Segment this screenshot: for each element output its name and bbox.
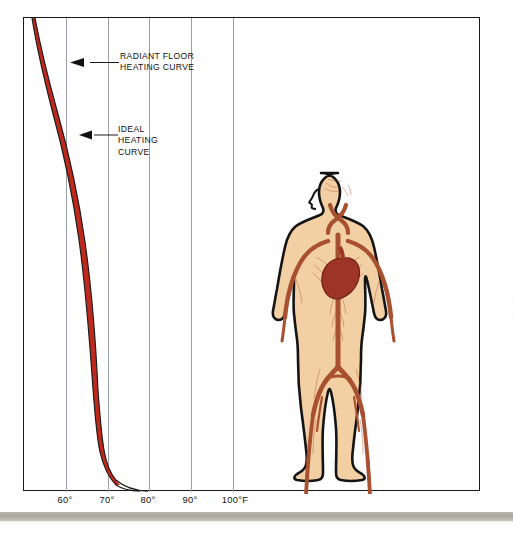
ideal-callout-leader [79,131,118,140]
tick-label-80: 80° [140,494,155,505]
callout-ideal-line2: HEATING [118,135,158,146]
callout-ideal-line1: IDEAL [118,124,158,135]
tick-label-100: 100°F [222,494,249,505]
callout-radiant-line1: RADIANT FLOOR [120,51,194,62]
callout-ideal-line3: CURVE [118,147,158,158]
tick-label-90: 90° [182,494,197,505]
comfort-band-area [32,18,120,485]
chart-gridlines [66,18,233,492]
tick-label-60: 60° [57,494,72,505]
x-axis-tick-labels: 60° 70° 80° 90° 100°F [0,494,513,510]
ideal-heating-curve [35,18,148,491]
callout-ideal: IDEAL HEATING CURVE [118,124,158,158]
radiant-callout-leader [70,58,119,67]
body-silhouette [273,173,386,481]
figure-page: RADIANT FLOOR HEATING CURVE IDEAL HEATIN… [0,0,513,533]
head-profile [309,189,319,209]
tick-label-70: 70° [99,494,114,505]
callout-radiant-line2: HEATING CURVE [120,62,194,73]
chart-frame [23,17,480,491]
callout-radiant-floor: RADIANT FLOOR HEATING CURVE [120,51,194,74]
page-edge-shadow [0,521,513,524]
page-edge-band [0,512,513,521]
human-circulatory-figure [256,169,421,494]
